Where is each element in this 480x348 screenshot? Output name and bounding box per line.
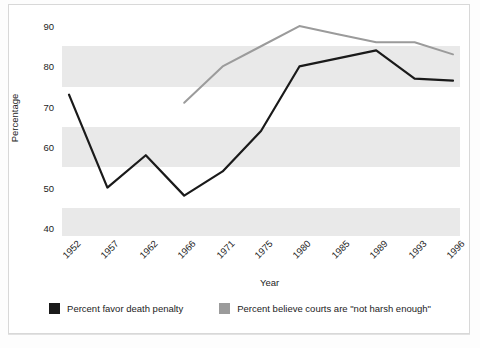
legend-item[interactable]: Percent favor death penalty — [49, 303, 183, 314]
legend-label: Percent believe courts are "not harsh en… — [237, 303, 431, 314]
legend-swatch-icon — [219, 303, 230, 314]
x-axis-tick-label: 1962 — [137, 238, 160, 261]
series-line — [69, 50, 453, 195]
x-axis-tick-label: 1971 — [214, 238, 237, 261]
y-axis-tick-label: 40 — [30, 222, 54, 233]
x-axis-tick-label: 1952 — [60, 238, 83, 261]
chart-figure: Percentage 405060708090 1952195719621966… — [0, 0, 480, 348]
x-axis-tick-label: 1980 — [290, 238, 313, 261]
x-axis-tick-label: 1975 — [252, 238, 275, 261]
y-axis-tick-label: 70 — [30, 101, 54, 112]
series-layer — [62, 18, 460, 236]
x-axis-tick-label: 1993 — [406, 238, 429, 261]
plot-area — [62, 18, 460, 236]
x-axis-tick-label: 1957 — [98, 238, 121, 261]
chart-legend: Percent favor death penaltyPercent belie… — [0, 303, 480, 314]
legend-swatch-icon — [49, 303, 60, 314]
y-axis-tick-label: 50 — [30, 182, 54, 193]
y-axis-tick-label: 60 — [30, 142, 54, 153]
y-axis-tick-label: 80 — [30, 61, 54, 72]
x-axis-tick-label: 1985 — [329, 238, 352, 261]
bottom-divider — [8, 334, 470, 335]
x-axis-label: Year — [260, 277, 279, 288]
x-axis-ticks: 1952195719621966197119751980198519891993… — [62, 238, 460, 278]
x-axis-tick-label: 1966 — [175, 238, 198, 261]
legend-item[interactable]: Percent believe courts are "not harsh en… — [219, 303, 431, 314]
legend-label: Percent favor death penalty — [67, 303, 183, 314]
x-axis-tick-label: 1989 — [367, 238, 390, 261]
y-axis-tick-label: 90 — [30, 21, 54, 32]
series-line — [184, 26, 453, 103]
